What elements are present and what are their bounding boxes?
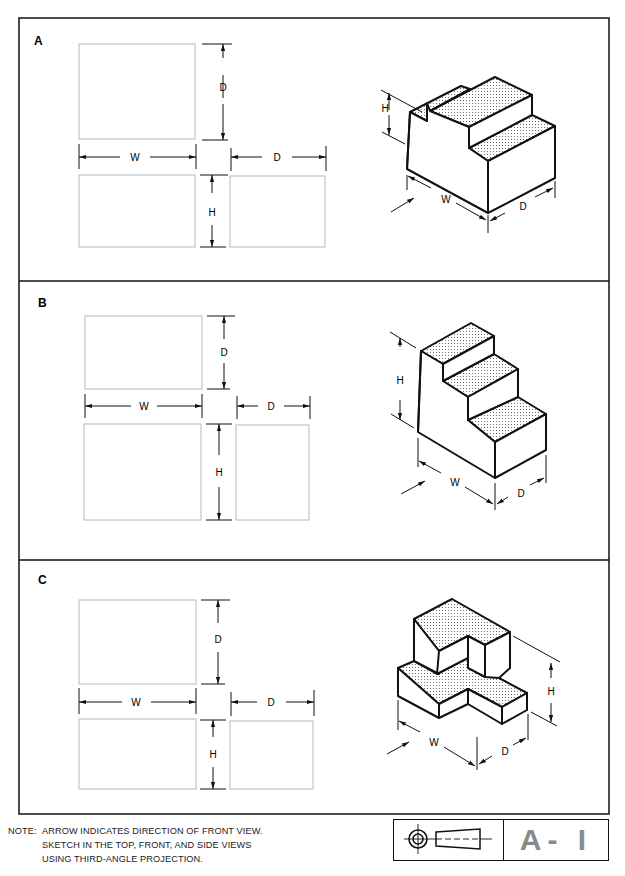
isometric-object-b [418,323,546,478]
dim-label: D [267,697,274,708]
front-view-box[interactable] [79,175,195,247]
dim-label: D [219,82,226,93]
front-view-box[interactable] [79,719,196,789]
dim-label: D [273,152,280,163]
side-view-box[interactable] [236,425,309,520]
note-line: USING THIRD-ANGLE PROJECTION. [42,852,203,866]
dim-label: H [209,749,216,760]
iso-dim-label: D [501,746,508,757]
iso-dim-label: H [381,103,388,114]
dim-label: W [131,697,141,708]
front-view-box[interactable] [84,424,201,520]
dim-label: W [130,152,140,163]
side-view-box[interactable] [230,176,325,247]
iso-dim-label: W [441,194,451,205]
sheet-number: A- I [504,820,608,860]
side-view-box[interactable] [230,721,313,789]
iso-dim-label: W [450,477,460,488]
dim-label: D [220,347,227,358]
panel-a: A D W D [34,34,555,247]
dim-label: H [215,467,222,478]
note-heading: NOTE: [8,824,42,838]
dim-label: H [208,207,215,218]
drawing-sheet: A D W D [0,0,625,876]
iso-dim-label: H [547,686,554,697]
panel-label: C [38,573,47,587]
iso-dim-label: D [517,488,524,499]
iso-dim-label: D [519,201,526,212]
top-view-box[interactable] [79,600,196,684]
dim-label: D [214,634,221,645]
isometric-object-a [407,77,555,213]
third-angle-projection-icon [394,820,500,859]
dimension-top-depth [202,44,232,140]
note-block: NOTE: ARROW INDICATES DIRECTION OF FRONT… [8,824,263,866]
panel-c: C D W D H [38,573,560,789]
iso-dim-label: H [396,375,403,386]
projection-symbol-cell [394,820,504,860]
panel-label: B [38,296,47,310]
dim-label: D [267,401,274,412]
panel-label: A [34,34,43,48]
title-block: A- I [393,819,609,861]
note-line: ARROW INDICATES DIRECTION OF FRONT VIEW. [42,824,263,838]
dim-label: W [139,401,149,412]
drawing-canvas: A D W D [0,0,625,876]
panel-b: B D W D H [38,296,546,520]
note-line: SKETCH IN THE TOP, FRONT, AND SIDE VIEWS [42,838,252,852]
iso-dim-label: W [429,737,439,748]
isometric-object-c [398,599,527,724]
top-view-box[interactable] [79,44,195,139]
top-view-box[interactable] [85,316,202,389]
